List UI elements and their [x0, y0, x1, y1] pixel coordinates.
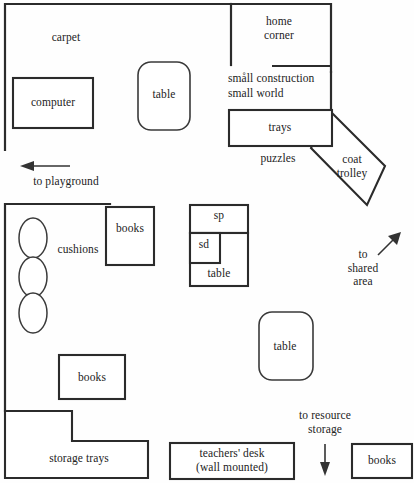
label-small-world: small world: [228, 87, 284, 101]
label-small-construction: småll construction: [228, 72, 314, 86]
label-home-corner: home corner: [264, 15, 294, 42]
resource-storage-arrow-icon: [320, 444, 330, 476]
label-table-top: table: [153, 88, 176, 102]
label-coat-trolley: coat trolley: [337, 153, 368, 180]
label-carpet: carpet: [52, 31, 81, 45]
label-teachers-desk: teachers' desk (wall mounted): [196, 447, 268, 474]
cushion-1-shape: [19, 218, 47, 258]
label-table-mid-right: table: [274, 340, 297, 354]
label-storage-trays: storage trays: [49, 452, 109, 466]
label-puzzles: puzzles: [260, 152, 295, 166]
classroom-floor-plan: carpet home corner småll construction sm…: [0, 0, 414, 483]
shared-area-arrow-icon: [378, 232, 401, 255]
label-computer: computer: [31, 96, 75, 110]
label-to-shared-area: to shared area: [348, 248, 379, 289]
label-books-lower: books: [78, 371, 106, 385]
label-trays: trays: [269, 121, 292, 135]
storage-trays-shape: [5, 411, 148, 478]
label-to-playground: to playground: [33, 175, 99, 189]
label-books-upper: books: [116, 222, 144, 236]
label-to-resource-storage: to resource storage: [299, 409, 351, 436]
label-sd: sd: [199, 238, 209, 252]
label-cushions: cushions: [57, 243, 98, 257]
playground-arrow-icon: [20, 161, 70, 171]
cushion-2-shape: [19, 257, 47, 297]
cushion-3-shape: [19, 293, 47, 333]
label-table-sink: table: [208, 267, 231, 281]
label-sp: sp: [214, 209, 224, 223]
books-upper-shape: [106, 207, 154, 265]
label-books-bottom-right: books: [368, 454, 396, 468]
